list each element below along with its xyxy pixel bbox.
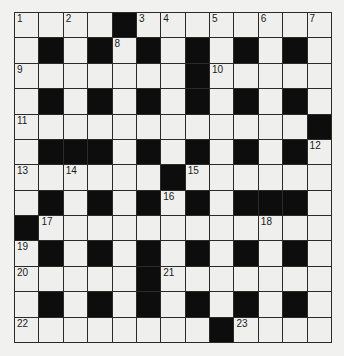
answer-cell[interactable]	[88, 267, 111, 291]
answer-cell[interactable]	[161, 64, 184, 88]
answer-cell[interactable]	[39, 64, 62, 88]
answer-cell[interactable]	[210, 216, 233, 240]
answer-cell[interactable]	[161, 318, 184, 342]
answer-cell[interactable]: 4	[161, 13, 184, 37]
answer-cell[interactable]	[234, 165, 257, 189]
answer-cell[interactable]	[39, 318, 62, 342]
answer-cell[interactable]	[259, 38, 282, 62]
answer-cell[interactable]	[161, 38, 184, 62]
answer-cell[interactable]	[259, 89, 282, 113]
answer-cell[interactable]	[308, 292, 331, 316]
answer-cell[interactable]	[64, 191, 87, 215]
answer-cell[interactable]	[15, 38, 38, 62]
answer-cell[interactable]	[210, 292, 233, 316]
answer-cell[interactable]	[137, 216, 160, 240]
answer-cell[interactable]: 15	[186, 165, 209, 189]
answer-cell[interactable]	[88, 216, 111, 240]
answer-cell[interactable]	[210, 267, 233, 291]
answer-cell[interactable]	[186, 216, 209, 240]
answer-cell[interactable]	[113, 191, 136, 215]
answer-cell[interactable]	[113, 216, 136, 240]
answer-cell[interactable]	[113, 292, 136, 316]
answer-cell[interactable]	[283, 64, 306, 88]
answer-cell[interactable]: 18	[259, 216, 282, 240]
answer-cell[interactable]	[186, 13, 209, 37]
answer-cell[interactable]: 17	[39, 216, 62, 240]
answer-cell[interactable]	[210, 115, 233, 139]
answer-cell[interactable]	[64, 216, 87, 240]
answer-cell[interactable]	[210, 165, 233, 189]
answer-cell[interactable]: 12	[308, 140, 331, 164]
answer-cell[interactable]	[186, 318, 209, 342]
answer-cell[interactable]	[113, 165, 136, 189]
answer-cell[interactable]: 23	[234, 318, 257, 342]
answer-cell[interactable]: 16	[161, 191, 184, 215]
answer-cell[interactable]	[259, 241, 282, 265]
answer-cell[interactable]	[113, 140, 136, 164]
answer-cell[interactable]	[15, 89, 38, 113]
answer-cell[interactable]: 10	[210, 64, 233, 88]
answer-cell[interactable]	[39, 165, 62, 189]
answer-cell[interactable]	[210, 191, 233, 215]
answer-cell[interactable]	[161, 140, 184, 164]
answer-cell[interactable]: 21	[161, 267, 184, 291]
answer-cell[interactable]	[113, 115, 136, 139]
answer-cell[interactable]	[113, 318, 136, 342]
answer-cell[interactable]	[113, 64, 136, 88]
answer-cell[interactable]: 14	[64, 165, 87, 189]
answer-cell[interactable]	[161, 292, 184, 316]
answer-cell[interactable]	[308, 38, 331, 62]
answer-cell[interactable]	[234, 267, 257, 291]
answer-cell[interactable]	[113, 89, 136, 113]
answer-cell[interactable]	[259, 115, 282, 139]
answer-cell[interactable]: 19	[15, 241, 38, 265]
answer-cell[interactable]	[259, 165, 282, 189]
answer-cell[interactable]	[283, 115, 306, 139]
answer-cell[interactable]	[64, 64, 87, 88]
answer-cell[interactable]	[39, 115, 62, 139]
answer-cell[interactable]	[161, 216, 184, 240]
answer-cell[interactable]	[64, 38, 87, 62]
answer-cell[interactable]	[308, 64, 331, 88]
answer-cell[interactable]: 1	[15, 13, 38, 37]
answer-cell[interactable]: 2	[64, 13, 87, 37]
answer-cell[interactable]	[259, 64, 282, 88]
answer-cell[interactable]	[234, 216, 257, 240]
answer-cell[interactable]	[210, 38, 233, 62]
answer-cell[interactable]	[283, 13, 306, 37]
answer-cell[interactable]: 13	[15, 165, 38, 189]
answer-cell[interactable]	[161, 241, 184, 265]
answer-cell[interactable]	[234, 115, 257, 139]
answer-cell[interactable]	[308, 89, 331, 113]
answer-cell[interactable]	[308, 191, 331, 215]
answer-cell[interactable]	[64, 115, 87, 139]
answer-cell[interactable]: 20	[15, 267, 38, 291]
answer-cell[interactable]	[308, 165, 331, 189]
answer-cell[interactable]: 5	[210, 13, 233, 37]
answer-cell[interactable]	[210, 89, 233, 113]
answer-cell[interactable]: 8	[113, 38, 136, 62]
answer-cell[interactable]	[137, 165, 160, 189]
answer-cell[interactable]	[259, 318, 282, 342]
answer-cell[interactable]	[137, 318, 160, 342]
answer-cell[interactable]	[308, 267, 331, 291]
answer-cell[interactable]	[259, 267, 282, 291]
answer-cell[interactable]: 7	[308, 13, 331, 37]
answer-cell[interactable]	[283, 318, 306, 342]
answer-cell[interactable]: 9	[15, 64, 38, 88]
answer-cell[interactable]	[88, 64, 111, 88]
answer-cell[interactable]	[186, 115, 209, 139]
answer-cell[interactable]: 3	[137, 13, 160, 37]
answer-cell[interactable]	[259, 140, 282, 164]
answer-cell[interactable]	[39, 267, 62, 291]
answer-cell[interactable]	[88, 115, 111, 139]
answer-cell[interactable]	[64, 241, 87, 265]
answer-cell[interactable]: 22	[15, 318, 38, 342]
answer-cell[interactable]	[137, 64, 160, 88]
answer-cell[interactable]	[39, 13, 62, 37]
answer-cell[interactable]	[161, 89, 184, 113]
answer-cell[interactable]	[308, 318, 331, 342]
answer-cell[interactable]	[186, 267, 209, 291]
answer-cell[interactable]	[15, 191, 38, 215]
answer-cell[interactable]	[64, 292, 87, 316]
